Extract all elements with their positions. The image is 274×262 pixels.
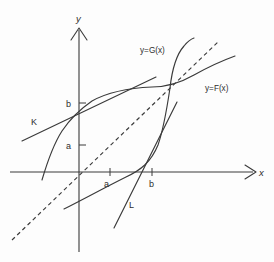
y-tick-a-label: a [66, 141, 71, 151]
tangent-line-L [114, 102, 177, 228]
tangent-line-K [22, 77, 156, 141]
identity-line-y-equals-x [12, 42, 218, 240]
tangent-L-label: L [129, 200, 134, 210]
curve-G [64, 38, 194, 209]
curve-G-label: y=G(x) [140, 46, 165, 55]
graph-canvas: x y a b a b y=G(x) y=F(x) K L [0, 0, 274, 262]
y-axis-ticks [79, 103, 86, 145]
x-axis [10, 165, 256, 179]
curve-F-label: y=F(x) [205, 84, 229, 93]
x-tick-b-label: b [149, 179, 154, 189]
math-figure: x y a b a b y=G(x) y=F(x) K L [0, 0, 274, 262]
y-tick-b-label: b [66, 99, 71, 109]
x-axis-label: x [258, 167, 265, 178]
y-axis-label: y [75, 13, 82, 24]
tangent-K-label: K [31, 117, 37, 127]
y-axis [71, 28, 87, 252]
